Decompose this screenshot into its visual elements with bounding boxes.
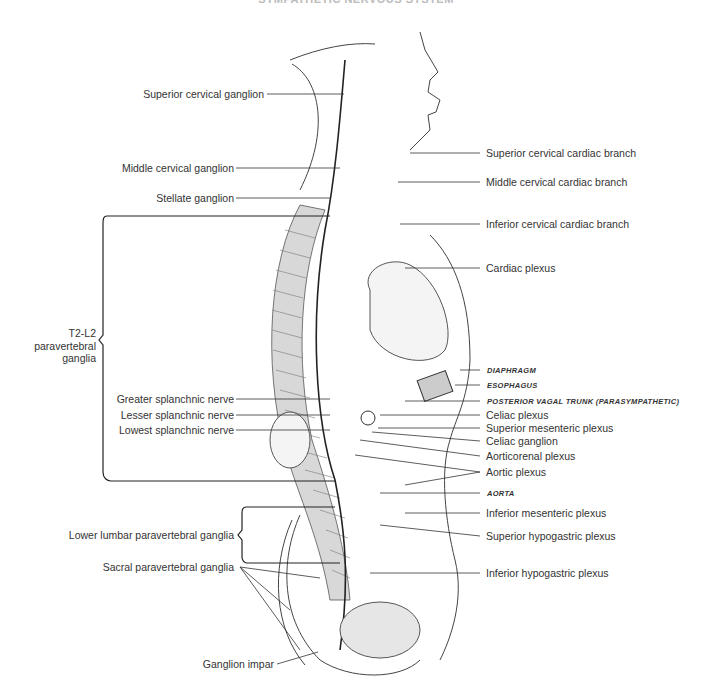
label-inferior-cervical-cardiac-branch: Inferior cervical cardiac branch [486, 218, 629, 230]
label-aortic-plexus: Aortic plexus [486, 466, 546, 478]
esophagus-stub [417, 371, 453, 402]
pelvic-organ [340, 602, 420, 658]
label-ganglion-impar: Ganglion impar [203, 658, 274, 670]
anatomy-illustration [0, 0, 712, 694]
label-diaphragm: DIAPHRAGM [487, 365, 536, 377]
label-inferior-hypogastric-plexus: Inferior hypogastric plexus [486, 567, 609, 579]
kidney [270, 412, 310, 468]
t2-l2-line-3: ganglia [34, 352, 96, 365]
t2-l2-line-2: paravertebral [34, 340, 96, 353]
label-esophagus: ESOPHAGUS [487, 380, 538, 392]
label-lowest-splanchnic-nerve: Lowest splanchnic nerve [119, 424, 234, 436]
t2-l2-line-1: T2-L2 [34, 327, 96, 340]
label-posterior-vagal-trunk: POSTERIOR VAGAL TRUNK (PARASYMPATHETIC) [487, 396, 679, 408]
label-inferior-mesenteric-plexus: Inferior mesenteric plexus [486, 507, 606, 519]
label-middle-cervical-cardiac-branch: Middle cervical cardiac branch [486, 176, 627, 188]
label-superior-cervical-ganglion: Superior cervical ganglion [143, 88, 264, 100]
right-leader-lines [355, 153, 480, 573]
label-superior-hypogastric-plexus: Superior hypogastric plexus [486, 530, 616, 542]
heart [368, 262, 448, 361]
label-middle-cervical-ganglion: Middle cervical ganglion [122, 162, 234, 174]
label-t2-l2-paravertebral-ganglia: T2-L2 paravertebral ganglia [34, 327, 96, 365]
label-celiac-plexus: Celiac plexus [486, 409, 548, 421]
celiac-ganglion-shape [361, 411, 375, 425]
label-stellate-ganglion: Stellate ganglion [156, 192, 234, 204]
skull-base-outline [290, 44, 375, 60]
label-lesser-splanchnic-nerve: Lesser splanchnic nerve [121, 409, 234, 421]
label-superior-cervical-cardiac-branch: Superior cervical cardiac branch [486, 147, 636, 159]
label-celiac-ganglion: Celiac ganglion [486, 435, 558, 447]
spine [272, 205, 350, 600]
label-greater-splanchnic-nerve: Greater splanchnic nerve [117, 393, 234, 405]
label-lower-lumbar-paravertebral-ganglia: Lower lumbar paravertebral ganglia [69, 529, 234, 541]
label-superior-mesenteric-plexus: Superior mesenteric plexus [486, 422, 613, 434]
label-cardiac-plexus: Cardiac plexus [486, 262, 555, 274]
label-aorticorenal-plexus: Aorticorenal plexus [486, 450, 575, 462]
label-aorta: AORTA [487, 488, 514, 500]
label-sacral-paravertebral-ganglia: Sacral paravertebral ganglia [103, 561, 234, 573]
